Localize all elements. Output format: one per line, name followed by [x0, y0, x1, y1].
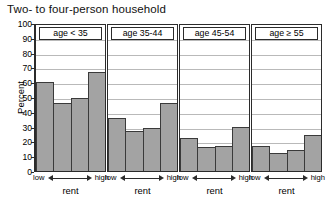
- panel-label: age 35-44: [111, 27, 174, 40]
- x-axis-line: [51, 178, 87, 179]
- arrow-right-icon: [87, 175, 92, 181]
- bar: [287, 150, 305, 171]
- x-axis-label-low: low: [105, 173, 116, 183]
- bar: [215, 146, 233, 171]
- bar: [160, 103, 178, 171]
- y-axis-tick-mark: [31, 98, 34, 99]
- x-axis-line: [123, 178, 159, 179]
- panel-label: age ≥ 55: [255, 27, 318, 40]
- panel-label: age 45-54: [183, 27, 246, 40]
- y-axis-tick-mark: [31, 128, 34, 129]
- y-axis-tick-mark: [31, 157, 34, 158]
- bar-group: [36, 25, 105, 171]
- chart-panel: age 45-54: [179, 24, 250, 172]
- x-axis: lowhigh: [179, 173, 250, 185]
- arrow-right-icon: [159, 175, 164, 181]
- y-axis-tick-mark: [31, 83, 34, 84]
- x-axis: lowhigh: [35, 173, 106, 185]
- bar-group: [180, 25, 249, 171]
- chart-figure: Two- to four-person household Percent 01…: [0, 0, 326, 207]
- x-axis-title: rent: [179, 185, 250, 196]
- arrow-right-icon: [303, 175, 308, 181]
- y-axis-tick-labels: 0102030405060708090100: [12, 24, 32, 172]
- x-axis-label-low: low: [249, 173, 260, 183]
- x-axis-label-low: low: [33, 173, 44, 183]
- y-axis-tick-label: 100: [18, 20, 32, 29]
- bar: [53, 103, 71, 171]
- bar: [232, 127, 250, 171]
- panel-label: age < 35: [39, 27, 102, 40]
- chart-panel: age 35-44: [107, 24, 178, 172]
- bar: [252, 146, 270, 171]
- x-axis-line: [195, 178, 231, 179]
- x-axis-label-low: low: [177, 173, 188, 183]
- bar-group: [108, 25, 177, 171]
- chart-panel: age ≥ 55: [251, 24, 322, 172]
- bar: [108, 118, 126, 171]
- bar: [143, 128, 161, 171]
- y-axis-tick-mark: [31, 68, 34, 69]
- bar: [269, 153, 287, 171]
- x-axis: lowhigh: [251, 173, 322, 185]
- x-axis-title: rent: [35, 185, 106, 196]
- bar: [36, 82, 54, 171]
- bar: [125, 131, 143, 171]
- chart-panel: age < 35: [35, 24, 106, 172]
- arrow-right-icon: [231, 175, 236, 181]
- y-axis-tick-mark: [31, 113, 34, 114]
- x-axis: lowhigh: [107, 173, 178, 185]
- y-axis-tick-mark: [31, 24, 34, 25]
- bar: [197, 147, 215, 171]
- y-axis-tick-mark: [31, 142, 34, 143]
- page-title: Two- to four-person household: [7, 2, 166, 16]
- x-axis-label-high: high: [311, 173, 325, 183]
- x-axis-line: [267, 178, 303, 179]
- bar: [71, 98, 89, 171]
- bar-group: [252, 25, 321, 171]
- bar: [88, 72, 106, 171]
- bar: [180, 138, 198, 171]
- x-axis-title: rent: [251, 185, 322, 196]
- y-axis-tick-mark: [31, 39, 34, 40]
- bar: [304, 135, 322, 171]
- x-axis-title: rent: [107, 185, 178, 196]
- y-axis-tick-mark: [31, 54, 34, 55]
